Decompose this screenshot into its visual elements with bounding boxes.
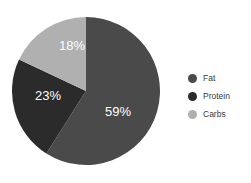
pie-label-carbs: 18% xyxy=(59,38,85,53)
legend-swatch-carbs-icon xyxy=(188,110,197,119)
legend-item-protein[interactable]: Protein xyxy=(188,87,251,105)
legend-swatch-fat-icon xyxy=(188,74,197,83)
legend-label-protein: Protein xyxy=(203,92,230,101)
legend-item-carbs[interactable]: Carbs xyxy=(188,105,251,123)
chart-legend: Fat Protein Carbs xyxy=(188,69,251,123)
legend-item-fat[interactable]: Fat xyxy=(188,69,251,87)
pie-chart-svg: 59% 23% 18% xyxy=(0,0,175,183)
pie-label-protein: 23% xyxy=(35,88,61,103)
legend-label-carbs: Carbs xyxy=(203,110,226,119)
pie-chart: 59% 23% 18% xyxy=(0,0,175,183)
legend-label-fat: Fat xyxy=(203,74,215,83)
legend-swatch-protein-icon xyxy=(188,92,197,101)
pie-label-fat: 59% xyxy=(105,104,131,119)
